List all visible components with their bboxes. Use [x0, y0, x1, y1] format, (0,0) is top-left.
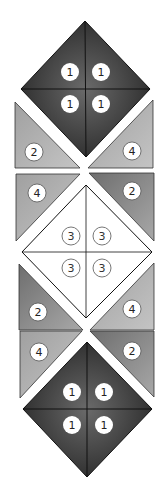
- badge-1: 1: [61, 63, 79, 81]
- svg-text:1: 1: [98, 98, 105, 111]
- svg-text:4: 4: [36, 346, 43, 359]
- svg-text:3: 3: [68, 230, 75, 243]
- badge-3: 3: [93, 259, 111, 277]
- svg-text:2: 2: [129, 185, 136, 198]
- svg-text:4: 4: [129, 145, 136, 158]
- svg-text:3: 3: [68, 262, 75, 275]
- svg-text:4: 4: [34, 187, 41, 200]
- badge-1: 1: [61, 95, 79, 113]
- badge-1: 1: [63, 416, 81, 434]
- svg-text:1: 1: [101, 419, 108, 432]
- badge-1: 1: [95, 416, 113, 434]
- svg-text:2: 2: [129, 345, 136, 358]
- svg-text:1: 1: [67, 66, 74, 79]
- badge-1: 1: [95, 383, 113, 401]
- badge-3: 3: [93, 227, 111, 245]
- badge-1: 1: [63, 383, 81, 401]
- svg-text:4: 4: [129, 303, 136, 316]
- svg-text:1: 1: [101, 386, 108, 399]
- svg-text:1: 1: [98, 66, 105, 79]
- svg-text:1: 1: [67, 98, 74, 111]
- quilt-piece-diagram: 1 1 1 1 2 4 4 2 3 3 3 3 2: [0, 0, 165, 503]
- svg-text:1: 1: [69, 419, 76, 432]
- svg-text:2: 2: [35, 306, 42, 319]
- badge-3: 3: [62, 227, 80, 245]
- svg-text:1: 1: [69, 386, 76, 399]
- svg-text:2: 2: [31, 146, 38, 159]
- badge-3: 3: [62, 259, 80, 277]
- badge-1: 1: [92, 95, 110, 113]
- svg-text:3: 3: [99, 230, 106, 243]
- svg-text:3: 3: [99, 262, 106, 275]
- badge-1: 1: [92, 63, 110, 81]
